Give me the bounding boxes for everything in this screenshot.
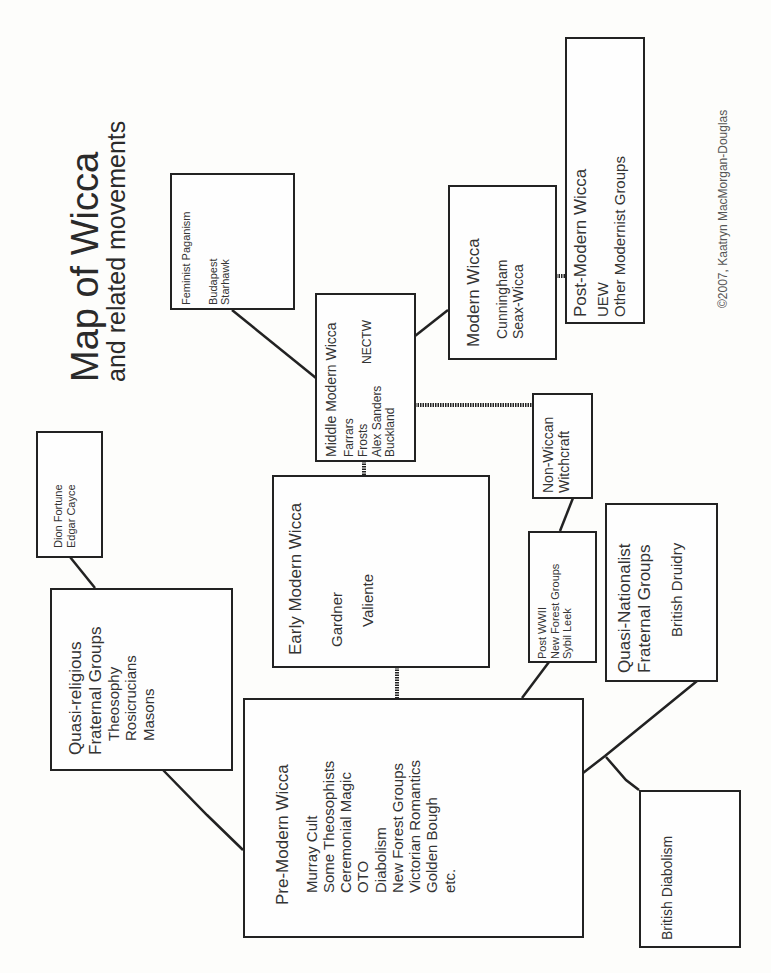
node-heading-line: Quasi-Nationalist <box>615 543 635 673</box>
node-heading-line: Fraternal Groups <box>635 543 655 673</box>
node-item: Victorian Romantics <box>406 760 423 893</box>
node-item: Buckland <box>384 322 398 457</box>
node-item: Valiente <box>359 503 376 655</box>
node-item: Dion Fortune <box>52 484 65 548</box>
node-non-wiccan-witchcraft: Non-Wiccan Witchcraft <box>532 393 593 499</box>
node-quasi-nationalist-fraternal-groups: Quasi-Nationalist Fraternal Groups Briti… <box>605 503 718 682</box>
node-item: Some Theosophists <box>320 760 337 893</box>
node-item: UEW <box>594 156 611 317</box>
node-early-modern-wicca: Early Modern Wicca Gardner Valiente <box>272 475 490 668</box>
node-item: New Forest Groups <box>549 564 562 659</box>
node-heading: Pre-Modern Wicca <box>273 760 293 905</box>
diagram-title-block: Map of Wicca and related movements <box>64 121 130 382</box>
node-heading-line: Non-Wiccan <box>540 417 556 493</box>
node-item: OTO <box>354 760 371 893</box>
node-item: Golden Bough <box>423 760 440 893</box>
node-item: etc. <box>441 760 458 893</box>
node-item: Other Modernist Groups <box>611 156 628 317</box>
node-heading-line: Quasi-religious <box>66 627 86 756</box>
node-item: Edgar Cayce <box>65 484 78 548</box>
node-heading: Feminist Paganism <box>180 211 193 305</box>
node-item: Starhawk <box>219 211 232 305</box>
node-item: British Druidry <box>668 543 685 673</box>
node-dion-fortune-edgar-cayce: Dion Fortune Edgar Cayce <box>36 431 103 558</box>
node-item: Budapest <box>207 211 220 305</box>
copyright-notice: ©2007, Kaatryn MacMorgan-Douglas <box>716 110 730 308</box>
node-item: Rosicrucians <box>122 627 139 756</box>
node-item: Murray Cult <box>303 760 320 893</box>
node-item: Farrars <box>343 322 357 457</box>
node-item: Theosophy <box>105 627 122 756</box>
node-middle-modern-wicca: Middle Modern Wicca Farrars Frosts Alex … <box>315 293 416 462</box>
node-heading: Modern Wicca <box>464 238 484 347</box>
node-heading: Post-Modern Wicca <box>571 156 591 317</box>
node-modern-wicca: Modern Wicca Cunningham Seax-Wicca <box>448 185 557 360</box>
node-heading-line: Fraternal Groups <box>86 627 106 756</box>
node-item: Gardner <box>328 503 345 655</box>
node-pre-modern-wicca: Pre-Modern Wicca Murray Cult Some Theoso… <box>243 698 584 938</box>
node-feminist-paganism: Feminist Paganism Budapest Starhawk <box>170 173 295 310</box>
node-post-wwii: Post WWII New Forest Groups Sybil Leek <box>528 531 597 663</box>
node-item: Diabolism <box>372 760 389 893</box>
node-item: Ceremonial Magic <box>337 760 354 893</box>
diagram-subtitle: and related movements <box>102 121 131 382</box>
node-british-diabolism: British Diabolism <box>639 790 741 948</box>
node-item: Masons <box>140 627 157 756</box>
node-item: Sybil Leek <box>561 564 574 659</box>
node-quasi-religious-fraternal-groups: Quasi-religious Fraternal Groups Theosop… <box>50 588 233 771</box>
node-post-modern-wicca: Post-Modern Wicca UEW Other Modernist Gr… <box>565 37 645 324</box>
node-heading-line: Witchcraft <box>556 417 572 493</box>
node-item-side: NECTW <box>360 320 374 364</box>
node-item: Seax-Wicca <box>510 238 526 347</box>
node-item: New Forest Groups <box>389 760 406 893</box>
node-heading: Early Modern Wicca <box>286 503 306 655</box>
node-heading: Middle Modern Wicca <box>323 322 339 457</box>
node-item: Cunningham <box>494 238 510 347</box>
node-heading: British Diabolism <box>659 836 675 940</box>
node-item: Post WWII <box>536 564 549 659</box>
